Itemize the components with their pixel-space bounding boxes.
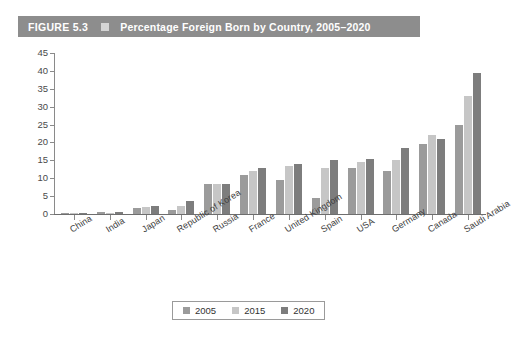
bar-2020 bbox=[294, 164, 302, 214]
y-axis-tick-label: 35 bbox=[37, 84, 48, 94]
x-axis-tick-mark bbox=[325, 215, 326, 220]
y-axis-tick-mark bbox=[50, 71, 54, 72]
y-axis-tick-label: 40 bbox=[37, 66, 48, 76]
x-axis-tick-mark bbox=[396, 215, 397, 220]
bar-2020 bbox=[401, 148, 409, 214]
legend-item[interactable]: 2015 bbox=[232, 305, 265, 316]
x-axis-tick-mark bbox=[432, 215, 433, 220]
y-axis-tick-label: 15 bbox=[37, 155, 48, 165]
x-axis-category-labels: ChinaIndiaJapanRepublic of KoreaRussiaFr… bbox=[0, 222, 510, 292]
bar-2005 bbox=[348, 168, 356, 215]
y-axis-tick-label: 0 bbox=[43, 209, 48, 219]
figure-header: FIGURE 5.3 Percentage Foreign Born by Co… bbox=[18, 16, 420, 37]
bar-group bbox=[61, 53, 87, 214]
bar-2020 bbox=[473, 73, 481, 214]
bar-group bbox=[383, 53, 409, 214]
square-swatch-icon bbox=[281, 307, 288, 314]
x-axis-tick-mark bbox=[468, 215, 469, 220]
bar-2020 bbox=[258, 168, 266, 215]
bar-2005 bbox=[61, 213, 69, 214]
bar-2005 bbox=[455, 125, 463, 214]
bar-group bbox=[240, 53, 266, 214]
bar-2020 bbox=[115, 212, 123, 214]
figure-title: Percentage Foreign Born by Country, 2005… bbox=[120, 21, 370, 33]
y-axis-tick-mark bbox=[50, 142, 54, 143]
square-swatch-icon bbox=[232, 307, 239, 314]
y-axis-tick-mark bbox=[50, 107, 54, 108]
y-axis-tick-label: 5 bbox=[43, 191, 48, 201]
x-axis-tick-mark bbox=[289, 215, 290, 220]
bar-2015 bbox=[70, 213, 78, 214]
y-axis-tick-mark bbox=[50, 53, 54, 54]
bar-group bbox=[419, 53, 445, 214]
y-axis-tick-mark bbox=[50, 125, 54, 126]
y-axis-tick-mark bbox=[50, 160, 54, 161]
bar-group bbox=[133, 53, 159, 214]
x-axis-tick-mark bbox=[146, 215, 147, 220]
bar-2020 bbox=[437, 139, 445, 214]
square-marker-icon bbox=[101, 23, 109, 31]
bar-group bbox=[168, 53, 194, 214]
bar-group bbox=[276, 53, 302, 214]
y-axis-tick-label: 45 bbox=[37, 48, 48, 58]
chart-plot-area: 051015202530354045 bbox=[0, 44, 510, 229]
bar-2020 bbox=[151, 206, 159, 214]
x-axis-tick-mark bbox=[217, 215, 218, 220]
bar-group bbox=[348, 53, 374, 214]
legend-item[interactable]: 2005 bbox=[183, 305, 216, 316]
y-axis-tick-mark bbox=[50, 178, 54, 179]
bar-series-layer bbox=[55, 53, 485, 214]
x-axis-tick-mark bbox=[181, 215, 182, 220]
chart-legend: 200520152020 bbox=[172, 301, 325, 320]
bar-2005 bbox=[168, 210, 176, 214]
bar-group bbox=[455, 53, 481, 214]
bar-2015 bbox=[357, 162, 365, 214]
y-axis-tick-mark bbox=[50, 89, 54, 90]
bar-2005 bbox=[133, 208, 141, 214]
x-axis-tick-mark bbox=[110, 215, 111, 220]
bar-2015 bbox=[285, 166, 293, 214]
legend-item[interactable]: 2020 bbox=[281, 305, 314, 316]
legend-label: 2005 bbox=[195, 305, 216, 316]
x-axis-tick-mark bbox=[253, 215, 254, 220]
bar-group bbox=[312, 53, 338, 214]
y-axis-tick-label: 25 bbox=[37, 120, 48, 130]
bar-2015 bbox=[428, 135, 436, 214]
bar-2015 bbox=[249, 171, 257, 214]
bar-group bbox=[97, 53, 123, 214]
bar-group bbox=[204, 53, 230, 214]
x-axis-tick-mark bbox=[74, 215, 75, 220]
bar-2015 bbox=[464, 96, 472, 214]
y-axis-tick-label: 10 bbox=[37, 173, 48, 183]
x-axis-tick-mark bbox=[361, 215, 362, 220]
bar-2005 bbox=[276, 180, 284, 214]
bar-2020 bbox=[186, 201, 194, 214]
y-axis-tick-mark bbox=[50, 214, 54, 215]
bar-2020 bbox=[366, 159, 374, 214]
bar-2015 bbox=[177, 206, 185, 214]
square-swatch-icon bbox=[183, 307, 190, 314]
y-axis-tick-label: 20 bbox=[37, 137, 48, 147]
legend-label: 2015 bbox=[244, 305, 265, 316]
bar-2015 bbox=[392, 160, 400, 214]
bar-2015 bbox=[142, 207, 150, 214]
figure-number-label: FIGURE 5.3 bbox=[28, 21, 88, 33]
bar-2005 bbox=[419, 144, 427, 214]
bar-2005 bbox=[383, 171, 391, 214]
bar-2005 bbox=[97, 212, 105, 214]
bar-2015 bbox=[106, 213, 114, 214]
y-axis-tick-label: 30 bbox=[37, 102, 48, 112]
legend-label: 2020 bbox=[293, 305, 314, 316]
y-axis-tick-mark bbox=[50, 196, 54, 197]
y-axis-tick-labels: 051015202530354045 bbox=[22, 44, 48, 215]
